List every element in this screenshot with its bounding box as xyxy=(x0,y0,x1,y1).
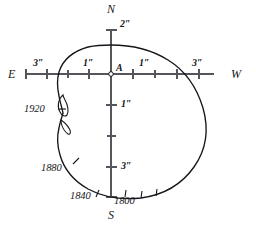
cardinal-label-south: S xyxy=(108,209,114,221)
tick-label-west-1: 1″ xyxy=(139,58,150,68)
origin-marker xyxy=(109,72,114,77)
tick-label-north-2: 2″ xyxy=(120,19,131,29)
epoch-tick-extra-a xyxy=(141,191,142,198)
epoch-label-1880: 1880 xyxy=(41,163,62,174)
tick-label-west-3: 3″ xyxy=(192,58,203,68)
epoch-label-1840: 1840 xyxy=(70,191,91,202)
center-label-a: A xyxy=(116,63,123,73)
cardinal-label-west: W xyxy=(231,68,241,80)
epoch-tick-marks xyxy=(58,109,157,198)
tick-label-east-1: 1″ xyxy=(83,58,94,68)
cardinal-label-north: N xyxy=(107,3,115,15)
cardinal-label-east: E xyxy=(8,68,16,80)
tick-label-south-3: 3″ xyxy=(121,161,132,171)
orbit-kink-lower xyxy=(61,120,70,134)
tick-label-south-1: 1″ xyxy=(121,99,132,109)
epoch-tick-1880 xyxy=(73,158,79,164)
tick-label-east-3: 3″ xyxy=(33,58,44,68)
apparent-orbit-figure: N S E W A 3″ 1″ 1″ 3″ 2″ 1″ 3″ 1920 1880… xyxy=(0,0,256,227)
epoch-label-1800: 1800 xyxy=(114,196,135,207)
epoch-label-1920: 1920 xyxy=(24,104,45,115)
orbit-curve xyxy=(58,45,207,199)
